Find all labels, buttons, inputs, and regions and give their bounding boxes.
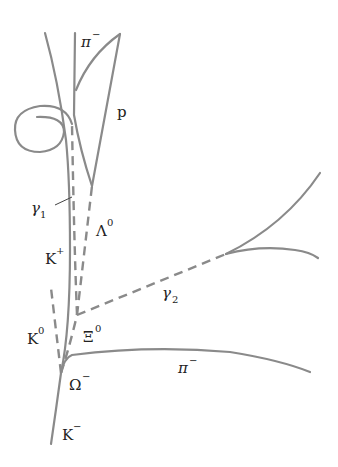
- k-plus-track: [45, 33, 70, 373]
- label-omega-minus: Ω −: [69, 371, 90, 394]
- svg-text:π: π: [177, 359, 189, 377]
- svg-text:0: 0: [107, 217, 113, 228]
- label-xi0: Ξ 0: [83, 323, 101, 346]
- svg-text:+: +: [56, 245, 64, 256]
- svg-text:0: 0: [95, 323, 101, 334]
- svg-text:2: 2: [172, 294, 178, 305]
- svg-text:Ξ: Ξ: [83, 328, 94, 346]
- lambda0-dashed-track: [77, 186, 92, 315]
- svg-text:p: p: [117, 103, 127, 121]
- label-k-minus: K −: [62, 421, 81, 444]
- label-gamma1: γ 1: [31, 199, 46, 220]
- pi-minus-top-track: [74, 33, 92, 186]
- label-gamma2: γ 2: [162, 284, 178, 305]
- svg-text:−: −: [73, 421, 81, 432]
- svg-text:π: π: [80, 33, 92, 51]
- gamma2-pair-lower: [226, 248, 318, 258]
- gamma2-pair-upper: [226, 173, 320, 254]
- gamma1-dashed-track: [72, 124, 77, 315]
- svg-text:1: 1: [40, 209, 46, 220]
- label-lambda0: Λ 0: [95, 217, 113, 240]
- gamma1-spiral: [15, 106, 72, 152]
- label-k-plus: K +: [45, 245, 64, 268]
- svg-text:0: 0: [38, 325, 44, 336]
- svg-text:−: −: [82, 371, 90, 382]
- svg-text:γ: γ: [162, 284, 171, 302]
- svg-text:−: −: [92, 29, 100, 40]
- bubble-chamber-diagram: π − p γ 1 Λ 0 K + γ 2 K 0 Ξ 0 Ω − π − K …: [0, 0, 338, 467]
- svg-text:γ: γ: [31, 199, 40, 217]
- svg-text:Ω: Ω: [69, 376, 81, 394]
- label-proton: p: [117, 103, 127, 121]
- gamma2-dashed-track: [77, 254, 226, 315]
- k0-dashed-track: [51, 288, 61, 373]
- label-pi-minus-bottom: π −: [177, 355, 197, 377]
- k-minus-track: [51, 373, 61, 444]
- svg-text:−: −: [189, 355, 197, 366]
- svg-text:Λ: Λ: [95, 222, 107, 240]
- label-k0: K 0: [27, 325, 44, 348]
- label-pi-minus-top: π −: [80, 29, 100, 51]
